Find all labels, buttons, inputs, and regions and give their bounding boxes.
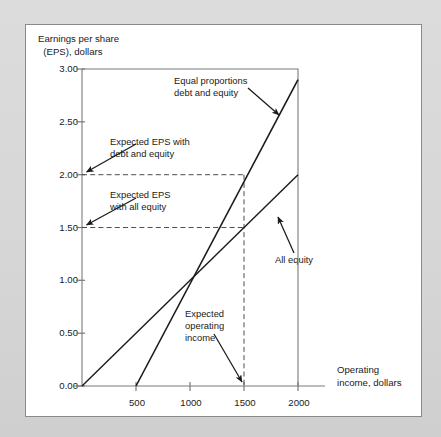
arrow-equal-proportions <box>248 88 279 115</box>
screenshot-page: Earnings per share (EPS), dollars Operat… <box>0 0 441 437</box>
arrow-expected-operating-income <box>214 334 242 382</box>
arrow-expected-eps-all-equity <box>87 198 137 225</box>
arrow-expected-eps-debt-equity <box>87 144 137 172</box>
plot-canvas <box>26 25 423 418</box>
figure-card: Earnings per share (EPS), dollars Operat… <box>25 24 422 417</box>
arrow-all-equity <box>278 217 294 253</box>
chart-figure: Earnings per share (EPS), dollars Operat… <box>26 25 423 418</box>
series-line-all-equity <box>82 175 298 386</box>
